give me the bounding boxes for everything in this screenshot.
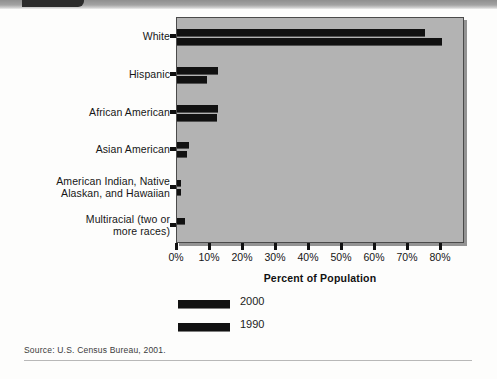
- x-tick-20: [241, 243, 244, 250]
- legend-label-1990: 1990: [240, 318, 264, 330]
- legend-swatch-1990-icon: [178, 323, 230, 331]
- x-tick-80: [439, 243, 442, 250]
- x-axis-title: Percent of Population: [176, 272, 464, 284]
- x-tick-0: [175, 243, 178, 250]
- legend-item-1990[interactable]: 1990: [178, 318, 338, 341]
- x-tick-70: [406, 243, 409, 250]
- bar-1990-4: [177, 189, 181, 195]
- bar-1990-0: [177, 38, 442, 45]
- x-tick-40: [307, 243, 310, 250]
- x-tick-60: [373, 243, 376, 250]
- bar-1990-1: [177, 76, 207, 83]
- y-axis-label-1: Hispanic: [2, 68, 170, 80]
- source-divider: [24, 360, 472, 361]
- bar-2000-5: [177, 218, 185, 224]
- bar-1990-3: [177, 151, 187, 157]
- legend-swatch-2000-icon: [178, 300, 230, 308]
- x-tick-10: [208, 243, 211, 250]
- bar-2000-1: [177, 67, 218, 74]
- bar-1990-2: [177, 114, 217, 121]
- x-tick-label-80: 80%: [420, 251, 460, 263]
- x-axis-tick-labels: 0%10%20%30%40%50%60%70%80%: [0, 251, 497, 267]
- source-note: Source: U.S. Census Bureau, 2001.: [24, 345, 166, 355]
- bar-2000-2: [177, 105, 218, 112]
- bar-2000-0: [177, 29, 425, 36]
- y-axis-label-3: Asian American: [2, 143, 170, 155]
- legend: 2000 1990: [178, 295, 338, 341]
- legend-item-2000[interactable]: 2000: [178, 295, 338, 318]
- bar-2000-4: [177, 180, 181, 186]
- y-axis-label-0: White: [2, 30, 170, 42]
- x-tick-50: [340, 243, 343, 250]
- x-tick-30: [274, 243, 277, 250]
- y-axis-labels: WhiteHispanicAfrican AmericanAsian Ameri…: [0, 0, 170, 250]
- y-axis-label-4: American Indian, NativeAlaskan, and Hawa…: [2, 175, 170, 199]
- figure-page: WhiteHispanicAfrican AmericanAsian Ameri…: [0, 0, 497, 379]
- plot-area: [176, 17, 464, 243]
- y-axis-label-5: Multiracial (two ormore races): [2, 213, 170, 237]
- y-axis-label-2: African American: [2, 106, 170, 118]
- bar-2000-3: [177, 142, 189, 148]
- legend-label-2000: 2000: [240, 295, 264, 307]
